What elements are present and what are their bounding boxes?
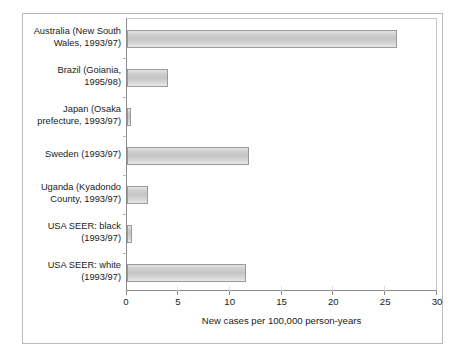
y-axis-category-row: USA SEER: white (1993/97)	[24, 252, 124, 291]
y-axis-tick	[123, 175, 127, 176]
x-axis-tick	[281, 291, 282, 295]
bar	[127, 30, 397, 48]
y-axis-category-label: Uganda (Kyadondo County, 1993/97)	[41, 182, 124, 205]
y-axis-category-row: Uganda (Kyadondo County, 1993/97)	[24, 174, 124, 213]
bar	[127, 108, 131, 126]
y-axis-category-labels: Australia (New South Wales, 1993/97)Braz…	[24, 18, 124, 291]
bar	[127, 225, 132, 243]
y-axis-category-row: Brazil (Goiania, 1995/98)	[24, 57, 124, 96]
x-axis-tick	[126, 291, 127, 295]
y-axis-category-row: USA SEER: black (1993/97)	[24, 213, 124, 252]
x-axis-tick-label: 30	[432, 296, 443, 307]
x-axis-tick-label: 10	[224, 296, 235, 307]
x-axis-tick-inner	[281, 286, 282, 291]
y-axis-category-label: USA SEER: white (1993/97)	[48, 260, 124, 283]
x-axis-tick-inner	[177, 286, 178, 291]
y-axis-category-label: Japan (Osaka prefecture, 1993/97)	[37, 104, 124, 127]
chart-figure: Australia (New South Wales, 1993/97)Braz…	[0, 0, 461, 358]
x-axis-tick	[384, 291, 385, 295]
y-axis-category-label: Brazil (Goiania, 1995/98)	[57, 65, 124, 88]
y-axis-category-row: Sweden (1993/97)	[24, 135, 124, 174]
x-axis-tick-label: 20	[328, 296, 339, 307]
x-axis-tick-label: 5	[175, 296, 180, 307]
y-axis-tick	[123, 253, 127, 254]
y-axis-tick	[123, 58, 127, 59]
bar-series	[127, 19, 436, 290]
y-axis-tick	[123, 214, 127, 215]
y-axis-category-label: USA SEER: black (1993/97)	[48, 221, 124, 244]
y-axis-category-row: Australia (New South Wales, 1993/97)	[24, 18, 124, 57]
x-axis-tick	[436, 291, 437, 295]
y-axis-tick	[123, 97, 127, 98]
bar	[127, 186, 148, 204]
bar	[127, 69, 168, 87]
x-axis-tick-inner	[332, 286, 333, 291]
x-axis-tick-inner	[384, 286, 385, 291]
x-axis-tick	[229, 291, 230, 295]
x-axis-tick	[332, 291, 333, 295]
plot-area	[126, 18, 437, 291]
bar	[127, 147, 249, 165]
x-axis-tick-label: 0	[123, 296, 128, 307]
y-axis-category-label: Sweden (1993/97)	[45, 149, 124, 161]
x-axis-tick-label: 15	[276, 296, 287, 307]
x-axis-tick-label: 25	[380, 296, 391, 307]
bar	[127, 264, 246, 282]
x-axis-title: New cases per 100,000 person-years	[126, 315, 437, 326]
x-axis-tick	[177, 291, 178, 295]
x-axis-tick-inner	[229, 286, 230, 291]
y-axis-category-row: Japan (Osaka prefecture, 1993/97)	[24, 96, 124, 135]
y-axis-tick	[123, 136, 127, 137]
y-axis-category-label: Australia (New South Wales, 1993/97)	[34, 26, 124, 49]
